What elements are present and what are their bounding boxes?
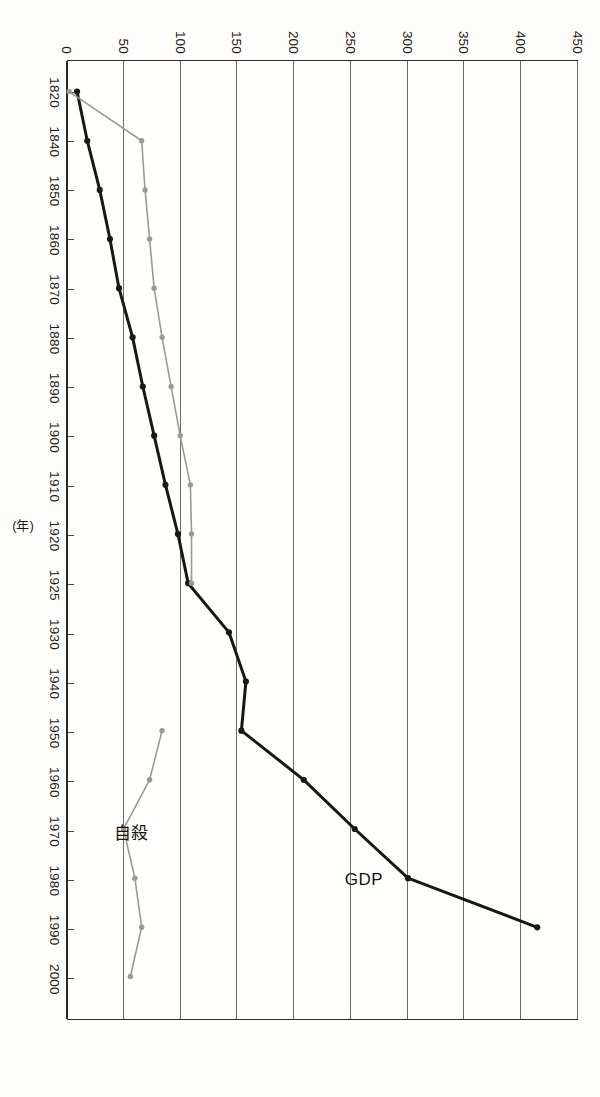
data-point-GDP-1860 (107, 236, 113, 242)
value-tick-label: 300 (399, 31, 414, 54)
data-point-自殺-1850 (142, 187, 147, 192)
data-point-自殺-1925 (189, 580, 194, 585)
data-point-自殺-2000 (128, 974, 133, 979)
data-point-GDP-1840 (84, 138, 90, 144)
data-point-GDP-1920 (175, 531, 181, 537)
data-point-自殺-1910 (188, 482, 193, 487)
x-axis-title: (年) (12, 515, 34, 534)
data-point-GDP-1900 (151, 433, 157, 439)
data-point-自殺-1880 (159, 335, 164, 340)
gridline-0: 0 (66, 61, 67, 1019)
data-point-自殺-1980 (132, 875, 137, 880)
year-tick-label: 1940 (47, 668, 62, 699)
value-tick-label: 350 (456, 31, 471, 54)
value-tick-label: 400 (513, 31, 528, 54)
data-point-GDP-1960 (301, 777, 307, 783)
year-tick-label: 1925 (47, 570, 62, 601)
year-tick-label: 1900 (47, 422, 62, 453)
data-point-自殺-1870 (151, 286, 156, 291)
series-label-gdp: GDP (345, 870, 383, 890)
year-tick-label: 1860 (47, 225, 62, 256)
data-point-GDP-1890 (140, 383, 146, 389)
data-point-GDP-1940 (243, 678, 249, 684)
data-point-自殺-1860 (147, 236, 152, 241)
year-tick-label: 2000 (47, 964, 62, 995)
year-tick-label: 1840 (47, 126, 62, 157)
value-tick-label: 200 (286, 31, 301, 54)
year-tick-label: 1930 (47, 619, 62, 650)
data-point-GDP-1850 (97, 187, 103, 193)
series-line-自殺 (124, 731, 163, 977)
value-tick-label: 250 (342, 31, 357, 54)
data-point-自殺-1950 (159, 728, 164, 733)
data-point-GDP-1950 (238, 728, 244, 734)
data-point-GDP-1990 (534, 924, 540, 930)
data-point-自殺-1990 (139, 925, 144, 930)
year-tick-label: 1820 (47, 77, 62, 108)
value-tick-label: 100 (172, 31, 187, 54)
year-tick-label: 1980 (47, 865, 62, 896)
value-tick-label: 0 (59, 46, 74, 54)
data-point-GDP-1870 (116, 285, 122, 291)
data-point-自殺-1960 (147, 777, 152, 782)
plot-area: 050100150200250300350400450 182018401850… (67, 60, 578, 1020)
value-tick-label: 50 (115, 39, 130, 54)
value-tick-label: 450 (570, 31, 585, 54)
rotated-chart-stage: 050100150200250300350400450 182018401850… (0, 0, 600, 1097)
data-point-GDP-1910 (162, 482, 168, 488)
data-point-自殺-1890 (168, 384, 173, 389)
year-tick-label: 1880 (47, 324, 62, 355)
data-point-GDP-1980 (405, 875, 411, 881)
year-tick-label: 1850 (47, 176, 62, 207)
year-tick-label: 1910 (47, 471, 62, 502)
year-tick-label: 1990 (47, 915, 62, 946)
series-line-GDP (77, 92, 537, 928)
year-tick-label: 1950 (47, 718, 62, 749)
data-point-GDP-1930 (226, 629, 232, 635)
series-canvas (68, 61, 578, 1019)
series-label-suicide: 自殺 (113, 818, 148, 843)
year-tick-label: 1970 (47, 816, 62, 847)
data-point-自殺-1900 (178, 433, 183, 438)
year-tick-label: 1870 (47, 274, 62, 305)
data-point-自殺-1920 (189, 531, 194, 536)
year-tick-label: 1920 (47, 521, 62, 552)
year-tick-label: 1960 (47, 767, 62, 798)
data-point-GDP-1970 (352, 826, 358, 832)
data-point-GDP-1880 (130, 334, 136, 340)
chart-figure: 050100150200250300350400450 182018401850… (0, 0, 600, 1097)
data-point-自殺-1820 (66, 89, 71, 94)
data-point-自殺-1840 (139, 138, 144, 143)
data-point-GDP-1820 (74, 88, 80, 94)
year-tick-label: 1890 (47, 373, 62, 404)
value-tick-label: 150 (229, 31, 244, 54)
